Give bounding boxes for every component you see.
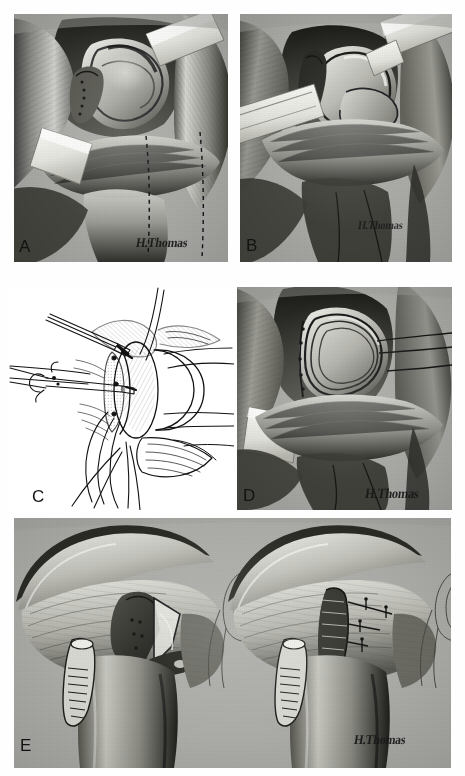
panel-c bbox=[8, 286, 234, 510]
panel-b: H.Thomas bbox=[240, 14, 452, 262]
panel-e-signature: H.Thomas bbox=[353, 732, 407, 749]
panel-a: H.Thomas bbox=[14, 14, 228, 262]
panel-d-artwork bbox=[237, 287, 452, 510]
panel-e-label: E bbox=[20, 737, 32, 754]
panel-d-signature: H.Thomas bbox=[364, 486, 420, 503]
panel-b-artwork bbox=[240, 14, 452, 262]
panel-d-label: D bbox=[243, 487, 255, 504]
panel-c-artwork bbox=[8, 286, 234, 510]
panel-b-label: B bbox=[246, 237, 258, 254]
figure-plate: H.Thomas A bbox=[0, 0, 465, 776]
panel-e: H.Thomas E bbox=[14, 518, 451, 768]
panel-a-artwork bbox=[14, 14, 228, 262]
panel-e-artwork bbox=[14, 518, 451, 768]
panel-a-signature: H.Thomas bbox=[135, 235, 189, 252]
panel-b-signature: H.Thomas bbox=[357, 219, 404, 231]
panel-d: H.Thomas bbox=[237, 287, 452, 510]
panel-a-label: A bbox=[19, 238, 31, 255]
panel-c-label: C bbox=[32, 488, 44, 505]
